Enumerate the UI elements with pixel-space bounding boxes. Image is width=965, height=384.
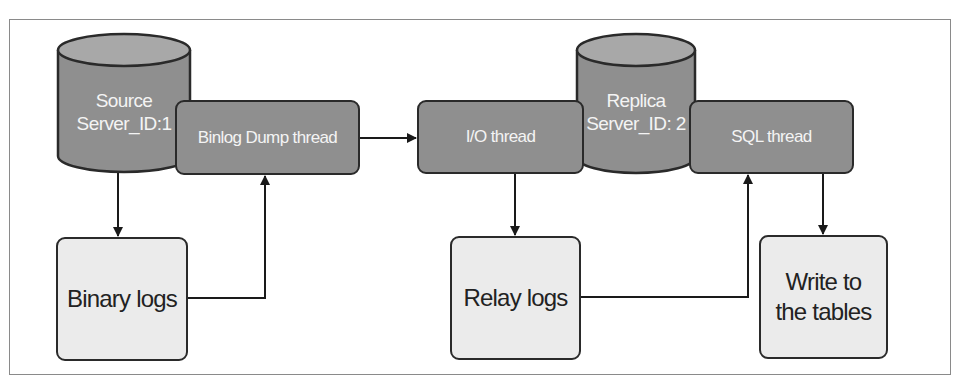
binlog-dump-thread: Binlog Dump thread — [175, 100, 360, 175]
relay-logs: Relay logs — [450, 236, 581, 360]
write-to-tables: Write to the tables — [759, 235, 888, 359]
write-label-line1: Write to — [786, 267, 862, 297]
source-server-id: Server_ID:1 — [56, 112, 192, 135]
replica-server-id: Server_ID: 2 — [575, 112, 697, 135]
replica-server-db: Replica Server_ID: 2 — [575, 32, 697, 175]
replica-label: Replica — [575, 89, 697, 112]
sql-thread: SQL thread — [689, 100, 854, 174]
io-thread: I/O thread — [417, 100, 584, 174]
arrow-relay-to-sql — [581, 175, 748, 297]
source-label: Source — [56, 89, 192, 112]
binary-logs: Binary logs — [56, 237, 188, 361]
arrow-binary-logs-to-dump — [188, 176, 265, 298]
source-server-db: Source Server_ID:1 — [56, 32, 192, 174]
write-label-line2: the tables — [775, 297, 871, 327]
